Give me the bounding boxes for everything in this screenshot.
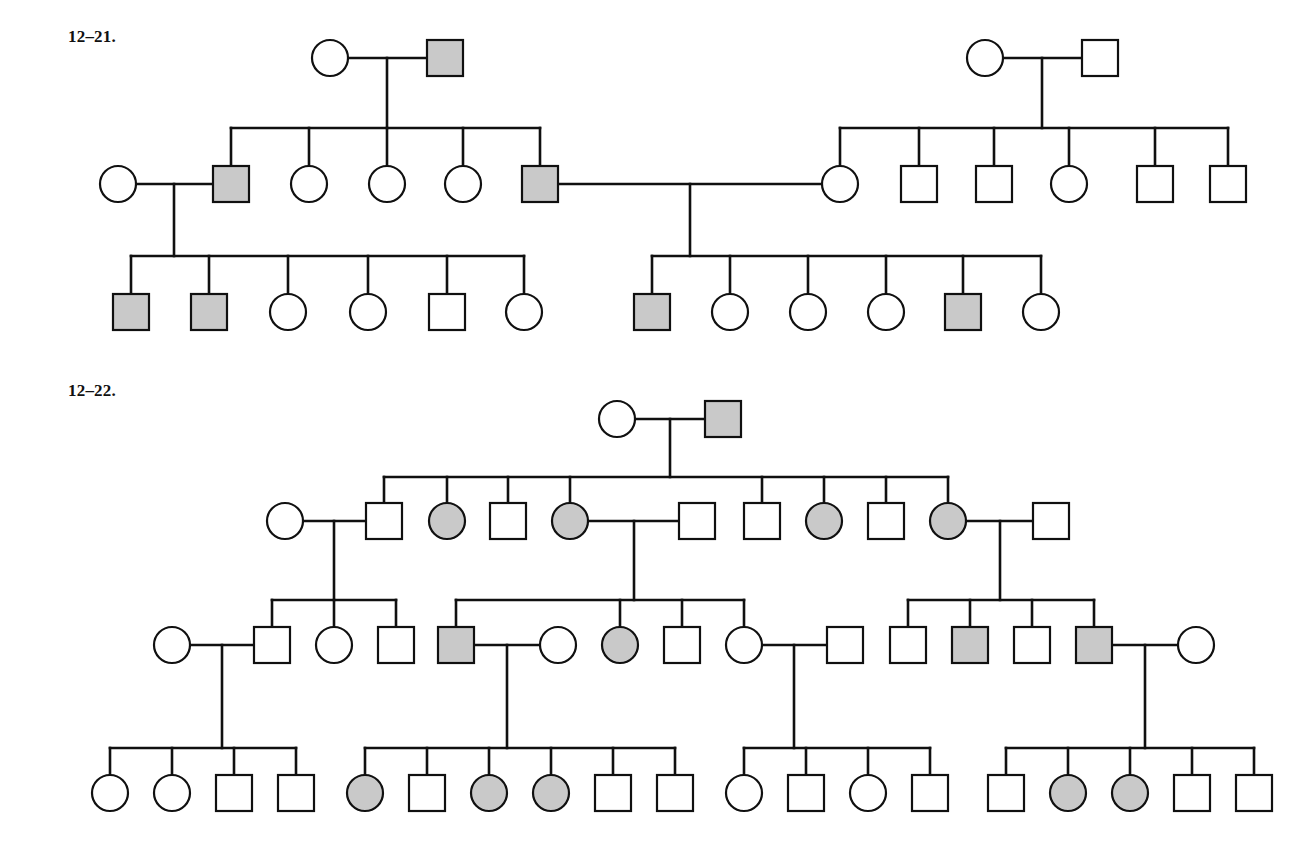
individual-I-IV-1-circle-affected <box>347 775 383 811</box>
individual-D-II-1-square-unaffected <box>366 503 402 539</box>
individual-C-III-1-square-affected <box>634 294 670 330</box>
individual-J-IV-2-square-unaffected <box>788 775 824 811</box>
individual-A-III-3-circle-unaffected <box>270 294 306 330</box>
individual-A-II-4-circle-unaffected <box>445 166 481 202</box>
individual-A-II-1-square-affected <box>213 166 249 202</box>
individual-A-I-1-circle-unaffected <box>312 40 348 76</box>
individual-I-IV-6-square-unaffected <box>657 775 693 811</box>
individual-A-III-4-circle-unaffected <box>350 294 386 330</box>
individual-A-II-0-circle-unaffected <box>100 166 136 202</box>
individual-C-III-5-square-affected <box>945 294 981 330</box>
individual-D-II-5s-square-unaffected <box>679 503 715 539</box>
individual-B-I-2-square-unaffected <box>1082 40 1118 76</box>
individual-D-II-10s-square-unaffected <box>1033 503 1069 539</box>
individual-A-II-3-circle-unaffected <box>369 166 405 202</box>
individual-B-II-2-square-unaffected <box>901 166 937 202</box>
individual-K-IV-2-circle-affected <box>1050 775 1086 811</box>
individual-E-III-2-circle-unaffected <box>316 627 352 663</box>
individual-H-IV-1-circle-unaffected <box>92 775 128 811</box>
individual-A-III-2-square-affected <box>191 294 227 330</box>
individual-C-III-4-circle-unaffected <box>868 294 904 330</box>
individual-E-III-3-square-unaffected <box>378 627 414 663</box>
individual-K-IV-1-square-unaffected <box>988 775 1024 811</box>
individual-G-III-2-square-affected <box>952 627 988 663</box>
individual-B-II-4-circle-unaffected <box>1051 166 1087 202</box>
individual-D-II-8-square-unaffected <box>868 503 904 539</box>
individual-C-III-3-circle-unaffected <box>790 294 826 330</box>
individual-I-IV-2-square-unaffected <box>409 775 445 811</box>
pedigree-connector-lines <box>110 58 1254 775</box>
individual-I-IV-4-circle-affected <box>533 775 569 811</box>
individual-F-III-3-square-unaffected <box>664 627 700 663</box>
individual-I-IV-5-square-unaffected <box>595 775 631 811</box>
pedigree-canvas <box>0 0 1303 852</box>
individual-D-II-7-circle-affected <box>806 503 842 539</box>
individual-K-IV-5-square-unaffected <box>1236 775 1272 811</box>
individual-A-I-2-square-affected <box>427 40 463 76</box>
individual-K-IV-3-circle-affected <box>1112 775 1148 811</box>
individual-F-III-1s-circle-unaffected <box>540 627 576 663</box>
individual-A-II-2-circle-unaffected <box>291 166 327 202</box>
individual-K-IV-4-square-unaffected <box>1174 775 1210 811</box>
individual-A-III-1-square-affected <box>113 294 149 330</box>
individual-J-IV-3-circle-unaffected <box>850 775 886 811</box>
individual-F-III-1-square-affected <box>438 627 474 663</box>
individual-D-II-6-square-unaffected <box>744 503 780 539</box>
individual-D-II-9-circle-affected <box>930 503 966 539</box>
individual-I-IV-3-circle-affected <box>471 775 507 811</box>
individual-D-I-1-circle-unaffected <box>599 401 635 437</box>
individual-A-III-6-circle-unaffected <box>506 294 542 330</box>
pedigree-symbols <box>92 40 1272 811</box>
individual-F-III-4-circle-unaffected <box>726 627 762 663</box>
individual-D-II-4-circle-affected <box>552 503 588 539</box>
individual-E-III-0-circle-unaffected <box>154 627 190 663</box>
individual-B-II-3-square-unaffected <box>976 166 1012 202</box>
individual-A-II-5-square-affected <box>522 166 558 202</box>
individual-B-I-1-circle-unaffected <box>967 40 1003 76</box>
individual-B-II-5-square-unaffected <box>1137 166 1173 202</box>
individual-B-II-1-circle-unaffected <box>822 166 858 202</box>
individual-J-IV-1-circle-unaffected <box>726 775 762 811</box>
individual-B-II-6-square-unaffected <box>1210 166 1246 202</box>
individual-G-III-3-square-unaffected <box>1014 627 1050 663</box>
individual-H-IV-4-square-unaffected <box>278 775 314 811</box>
individual-C-III-2-circle-unaffected <box>712 294 748 330</box>
individual-G-III-1-square-unaffected <box>890 627 926 663</box>
individual-F-III-2-circle-affected <box>602 627 638 663</box>
individual-F-III-4s-square-unaffected <box>827 627 863 663</box>
individual-D-I-2-square-affected <box>705 401 741 437</box>
individual-D-II-0-circle-unaffected <box>267 503 303 539</box>
individual-H-IV-3-square-unaffected <box>216 775 252 811</box>
individual-C-III-6-circle-unaffected <box>1023 294 1059 330</box>
individual-J-IV-4-square-unaffected <box>912 775 948 811</box>
individual-D-II-2-circle-affected <box>429 503 465 539</box>
individual-G-III-4s-circle-unaffected <box>1178 627 1214 663</box>
individual-E-III-1-square-unaffected <box>254 627 290 663</box>
individual-H-IV-2-circle-unaffected <box>154 775 190 811</box>
individual-A-III-5-square-unaffected <box>429 294 465 330</box>
individual-G-III-4-square-affected <box>1076 627 1112 663</box>
individual-D-II-3-square-unaffected <box>490 503 526 539</box>
